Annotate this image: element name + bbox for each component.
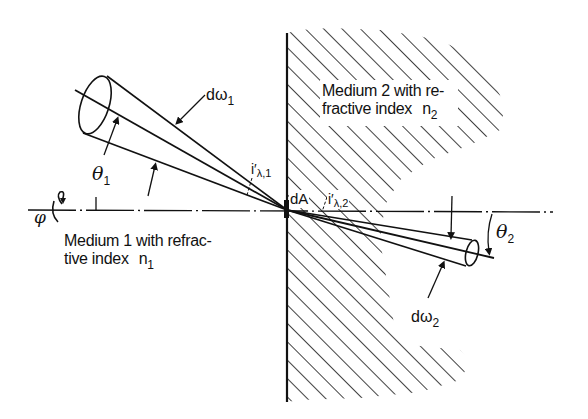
medium-1-line-1: Medium 1 with refrac- [64,232,212,250]
theta-2-arrow-top [451,196,452,236]
theta-2-arc [488,214,492,252]
medium-2-line-1: Medium 2 with re- [322,82,444,100]
dA-label: dA [289,190,309,208]
theta-1-arc-upper [104,120,117,155]
theta-1-arc-lower [148,166,155,196]
phi-label: φ [34,208,46,227]
medium-1-label: Medium 1 with refrac- tive index n1 [64,232,212,269]
theta-2-label: θ2 [496,222,514,243]
d-omega-2-label: dω2 [411,308,439,327]
d-omega-1-leader [178,95,205,122]
cone-1-axis [75,90,287,210]
cone-d-omega-1 [72,72,287,210]
i-lambda-1-label: i′λ,1 [251,160,271,179]
medium-2-label: Medium 2 with re- fractive index n2 [322,82,444,119]
theta-1-label: θ1 [92,164,110,185]
medium-2-line-2: fractive index n2 [322,100,444,119]
phi-rotation-arrow [53,192,64,222]
d-omega-2-leader [428,264,443,298]
refraction-diagram [0,0,588,419]
medium-1-line-2: tive index n1 [64,250,212,269]
d-omega-1-label: dω1 [206,86,234,105]
i-lambda-2-label: i′λ,2 [327,190,349,209]
